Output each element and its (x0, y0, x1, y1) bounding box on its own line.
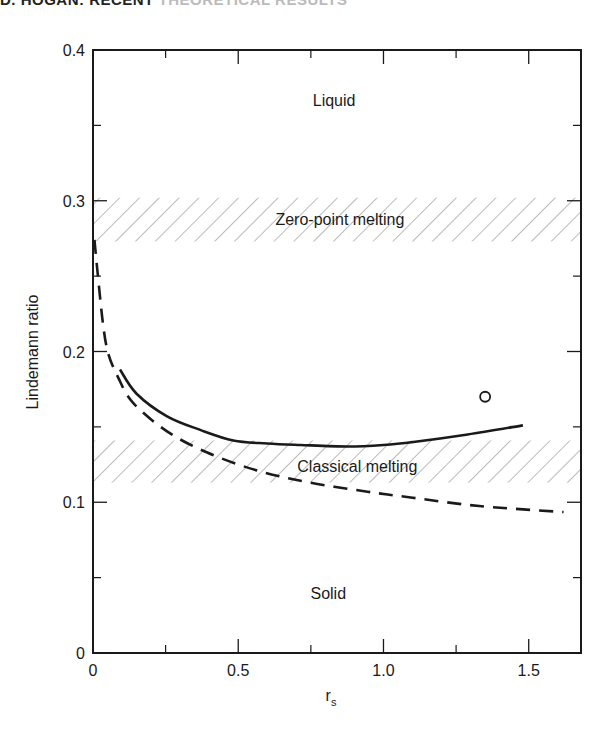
x-tick-label: 1.0 (372, 662, 394, 679)
y-tick-label: 0.2 (63, 344, 85, 361)
y-tick-label: 0.3 (63, 193, 85, 210)
axis-tick-labels: 00.51.01.500.10.20.30.4 (63, 42, 540, 679)
solid-curve (120, 370, 523, 447)
x-tick-label: 0 (89, 662, 98, 679)
y-tick-label: 0 (76, 645, 85, 662)
region-labels: LiquidZero-point meltingClassical meltin… (275, 92, 417, 602)
lindemann-ratio-chart: 00.51.01.500.10.20.30.4 LiquidZero-point… (0, 0, 611, 733)
plot-border (93, 50, 581, 653)
x-axis-label-sub: s (331, 696, 337, 708)
plot-frame (93, 50, 581, 653)
region-label-solid: Solid (310, 585, 346, 602)
x-axis-label: rs (326, 687, 337, 708)
y-tick-label: 0.1 (63, 494, 85, 511)
region-label-classical-melting: Classical melting (297, 458, 417, 475)
y-tick-label: 0.4 (63, 42, 85, 59)
melting-bands (93, 198, 581, 483)
data-point-circle (480, 392, 490, 402)
region-label-zero-point-melting: Zero-point melting (275, 211, 404, 228)
x-tick-label: 0.5 (227, 662, 249, 679)
axis-ticks (93, 50, 581, 653)
y-axis-label: Lindemann ratio (24, 295, 41, 410)
x-tick-label: 1.5 (518, 662, 540, 679)
region-label-liquid: Liquid (313, 92, 356, 109)
